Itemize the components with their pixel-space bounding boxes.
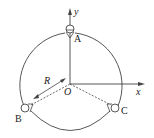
radius-arrow-head-in [60, 78, 66, 83]
diagram: y x O R A B C [0, 0, 154, 138]
radius-label: R [43, 75, 50, 86]
arc-a-to-b [20, 33, 65, 106]
x-axis-label: x [135, 86, 141, 97]
arc-b-to-c-bottom [31, 111, 110, 131]
y-axis-label: y [73, 6, 79, 17]
y-axis-arrow [68, 8, 72, 15]
origin-label: O [64, 86, 71, 97]
point-b-label: B [15, 113, 22, 124]
peg-c [111, 104, 119, 112]
peg-a [66, 25, 74, 33]
dashed-line-oc [70, 84, 111, 105]
point-a-label: A [74, 33, 82, 44]
peg-b [21, 104, 29, 112]
radius-arrow-head-out [33, 94, 39, 99]
point-c-label: C [121, 105, 128, 116]
arc-a-to-c [75, 33, 122, 106]
